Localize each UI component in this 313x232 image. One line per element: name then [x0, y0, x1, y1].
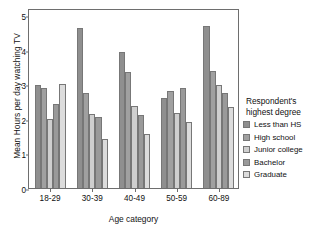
bar	[144, 134, 150, 188]
y-tick-mark	[26, 190, 29, 191]
x-tick-mark	[219, 188, 220, 192]
x-tick-label: 50-59	[166, 194, 187, 203]
legend-items: Less than HSHigh schoolJunior collegeBac…	[243, 120, 313, 179]
x-tick-label: 40-49	[124, 194, 145, 203]
legend-label: Junior college	[254, 145, 303, 154]
x-tick-label: 30-39	[82, 194, 103, 203]
legend-title: Respondent's highest degree	[243, 96, 313, 117]
legend-swatch	[243, 146, 250, 153]
legend-title-line-2: highest degree	[246, 107, 313, 118]
legend-item: Graduate	[243, 170, 313, 179]
legend-item: Bachelor	[243, 158, 313, 167]
x-tick-label: 60-89	[208, 194, 229, 203]
legend-item: Less than HS	[243, 120, 313, 129]
bar-chart: Mean Hours per day watching TV 012345 18…	[0, 0, 313, 232]
legend: Respondent's highest degree Less than HS…	[243, 96, 313, 183]
legend-swatch	[243, 159, 250, 166]
legend-swatch	[243, 171, 250, 178]
legend-item: Junior college	[243, 145, 313, 154]
bar	[59, 84, 65, 188]
legend-label: High school	[254, 133, 295, 142]
bar	[186, 122, 192, 188]
legend-label: Graduate	[254, 170, 287, 179]
x-tick-mark	[50, 188, 51, 192]
bar	[102, 139, 108, 189]
legend-swatch	[243, 121, 250, 128]
x-tick-mark	[92, 188, 93, 192]
x-tick-label: 18-29	[40, 194, 61, 203]
bar	[228, 107, 234, 188]
x-tick-mark	[135, 188, 136, 192]
bars-layer	[29, 10, 238, 188]
legend-item: High school	[243, 133, 313, 142]
plot-area: 012345 18-2930-3940-4950-5960-89	[28, 9, 239, 189]
x-axis-title: Age category	[28, 214, 239, 224]
legend-label: Bachelor	[254, 158, 285, 167]
legend-label: Less than HS	[254, 120, 301, 129]
legend-title-line-1: Respondent's	[246, 96, 313, 107]
legend-swatch	[243, 134, 250, 141]
x-tick-mark	[177, 188, 178, 192]
